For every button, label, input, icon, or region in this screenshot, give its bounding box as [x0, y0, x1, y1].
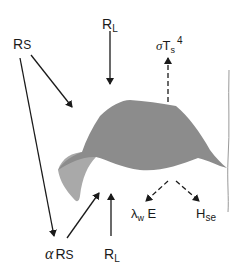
label-shortwave-in: RS	[13, 36, 31, 52]
label-latent-heat: λw E	[131, 206, 157, 223]
shortwave-to-ground-arrow	[20, 58, 54, 236]
sensible-heat-arrow	[176, 181, 199, 201]
label-reflected: αRS	[45, 245, 74, 262]
latent-heat-arrow	[146, 181, 168, 201]
shortwave-to-leaf-arrow	[31, 55, 72, 107]
label-longwave-top: RL	[102, 16, 118, 34]
stem	[228, 70, 229, 212]
label-longwave-bottom: RL	[104, 246, 120, 264]
label-emitted: σTs4	[156, 35, 183, 55]
label-sensible-heat: Hse	[196, 206, 216, 223]
leaf-energy-balance-diagram: RS RL σTs4 αRS RL λw E Hse	[0, 0, 240, 272]
reflected-up-arrow	[67, 193, 99, 238]
